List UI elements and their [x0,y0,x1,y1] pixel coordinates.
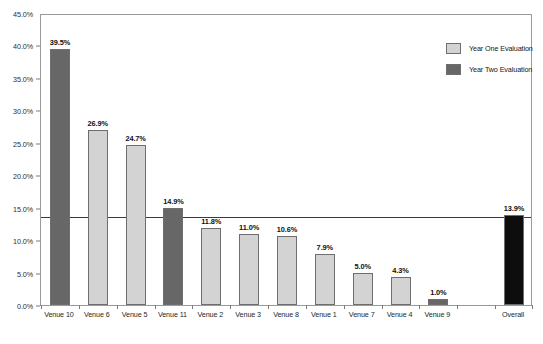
x-axis-tick-label: Venue 10 [44,310,74,319]
y-axis-tick-label: 40.0% [13,42,33,51]
y-axis-tick-label: 25.0% [13,139,33,148]
x-axis-tick-label: Venue 8 [273,310,299,319]
y-axis-tick-label: 35.0% [13,74,33,83]
bar-slot: 39.5% [41,15,79,305]
bar-value-label: 24.7% [125,134,145,143]
y-axis-tick-label: 10.0% [13,237,33,246]
bar-slot: 4.3% [382,15,420,305]
bar-value-label: 26.9% [88,119,108,128]
y-axis-tick-label: 20.0% [13,172,33,181]
y-axis-tick-label: 5.0% [17,269,33,278]
bar[interactable] [201,228,221,305]
x-axis-tick-mark [344,305,345,309]
x-axis-tick-label: Venue 1 [311,310,337,319]
x-axis-tick-mark [117,305,118,309]
x-axis-tick-mark [79,305,80,309]
x-axis-tick-label: Venue 2 [197,310,223,319]
bar[interactable] [88,130,108,305]
y-axis-tick-label: 15.0% [13,204,33,213]
bar[interactable] [163,208,183,305]
bar-slot: 24.7% [117,15,155,305]
x-axis-tick-mark [192,305,193,309]
bar-value-label: 11.8% [201,217,221,226]
bar-value-label: 11.0% [239,223,259,232]
bar[interactable] [353,273,373,305]
x-axis: Venue 10Venue 6Venue 5Venue 11Venue 2Ven… [40,310,532,330]
bar-slot: 26.9% [79,15,117,305]
bar-slot: 5.0% [344,15,382,305]
x-axis-tick-label: Venue 3 [235,310,261,319]
x-axis-tick-mark [382,305,383,309]
bar-slot: 11.0% [230,15,268,305]
x-axis-tick-mark [457,305,458,309]
x-axis-tick-mark [419,305,420,309]
bar[interactable] [504,215,524,305]
y-axis: 0.0%5.0%10.0%15.0%20.0%25.0%30.0%35.0%40… [0,14,40,306]
plot-area: 39.5%26.9%24.7%14.9%11.8%11.0%10.6%7.9%5… [40,14,532,306]
bar-value-label: 1.0% [430,288,446,297]
legend-label-year-one: Year One Evaluation [469,44,533,53]
x-axis-tick-label: Overall [502,310,524,319]
bar[interactable] [50,49,70,305]
x-axis-tick-label: Venue 6 [84,310,110,319]
x-axis-tick-label: Venue 4 [387,310,413,319]
x-axis-tick-mark [155,305,156,309]
x-axis-tick-mark [306,305,307,309]
x-axis-tick-mark [532,305,533,309]
x-axis-tick-label: Venue 5 [122,310,148,319]
bar-slot: 11.8% [192,15,230,305]
bar[interactable] [277,236,297,305]
x-axis-tick-mark [495,305,496,309]
bar-value-label: 10.6% [277,225,297,234]
x-axis-tick-mark [230,305,231,309]
x-axis-tick-label: Venue 7 [349,310,375,319]
x-axis-tick-mark [268,305,269,309]
legend-swatch-year-one [446,43,461,54]
bar-chart: 0.0%5.0%10.0%15.0%20.0%25.0%30.0%35.0%40… [0,0,543,344]
legend-swatch-year-two [446,64,461,75]
bar-slot: 10.6% [268,15,306,305]
bar[interactable] [126,145,146,305]
bar-value-label: 7.9% [317,243,333,252]
bar-value-label: 14.9% [163,197,183,206]
bar-value-label: 5.0% [354,262,370,271]
legend-item-year-one[interactable]: Year One Evaluation [446,42,533,54]
legend-label-year-two: Year Two Evaluation [469,65,532,74]
bar-slot: 14.9% [155,15,193,305]
bar-value-label: 39.5% [50,38,70,47]
y-axis-tick-label: 30.0% [13,107,33,116]
bar[interactable] [315,254,335,305]
legend-item-year-two[interactable]: Year Two Evaluation [446,63,533,75]
bar[interactable] [428,299,448,305]
y-axis-tick-label: 45.0% [13,10,33,19]
bar-value-label: 13.9% [504,204,524,213]
legend: Year One Evaluation Year Two Evaluation [446,42,533,84]
bar[interactable] [391,277,411,305]
bar-slot: 7.9% [306,15,344,305]
bar[interactable] [239,234,259,305]
bar-value-label: 4.3% [392,266,408,275]
y-axis-tick-label: 0.0% [17,302,33,311]
x-axis-tick-label: Venue 9 [425,310,451,319]
x-axis-tick-label: Venue 11 [158,310,187,319]
x-axis-tick-mark [41,305,42,309]
